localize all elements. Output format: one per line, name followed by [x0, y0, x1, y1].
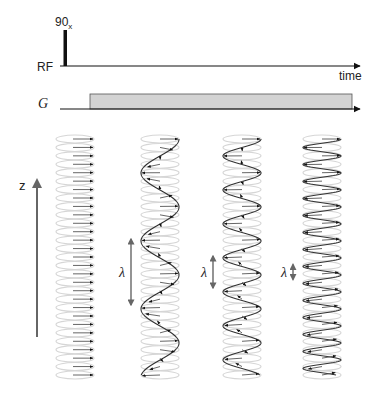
magnetization-vector: [305, 265, 322, 266]
pulse-label: 90x: [55, 15, 72, 31]
magnetization-vector: [306, 282, 322, 284]
magnetization-vector: [160, 282, 174, 284]
magnetization-vector: [236, 363, 242, 366]
magnetization-vector: [304, 198, 322, 199]
magnetization-vector: [242, 340, 259, 341]
rf-label: RF: [37, 60, 53, 74]
magnetization-vector: [224, 257, 242, 258]
magnetization-vector: [148, 232, 160, 235]
magnetization-vector: [242, 240, 260, 241]
magnetization-vector: [242, 374, 259, 375]
magnetization-vector: [308, 367, 322, 369]
magnetization-vector: [305, 215, 322, 216]
rf-pulse-bar: [64, 30, 68, 66]
helix-columns: λλλ: [56, 135, 341, 379]
column-medium-wavelength: λ: [200, 135, 261, 379]
magnetization-vector: [160, 215, 173, 217]
magnetization-vector: [146, 246, 160, 248]
z-axis: z: [19, 178, 37, 337]
magnetization-vector: [149, 299, 160, 302]
magnetization-vector: [307, 333, 322, 335]
magnetization-vector: [160, 147, 173, 150]
magnetization-vector: [239, 228, 242, 232]
column-uniform: [56, 135, 94, 379]
magnetization-vector: [238, 262, 242, 266]
magnetization-vector: [142, 375, 160, 376]
magnetization-vector: [322, 239, 339, 240]
magnetization-vector: [322, 189, 340, 190]
magnetization-vector: [306, 299, 322, 301]
magnetization-vector: [158, 253, 160, 257]
z-axis-label: z: [19, 178, 26, 193]
wavelength-label: λ: [280, 265, 287, 280]
wavelength-label: λ: [118, 265, 125, 280]
magnetization-vector: [225, 324, 242, 325]
magnetization-vector: [225, 291, 242, 292]
magnetization-vector: [242, 307, 259, 308]
magnetization-vector: [241, 161, 242, 165]
gradient-label: G: [38, 96, 48, 111]
pulse-sequence: RF 90x time G: [37, 15, 362, 111]
magnetization-vector: [146, 314, 160, 316]
magnetization-vector: [225, 358, 242, 359]
magnetization-vector: [307, 316, 322, 318]
magnetization-vector: [305, 249, 322, 250]
magnetization-vector: [147, 179, 160, 181]
magnetization-vector: [238, 296, 242, 299]
spin-helix-diagram: RF 90x time G z λλλ: [0, 0, 379, 397]
magnetization-vector: [305, 232, 322, 233]
magnetization-vector: [322, 206, 340, 207]
column-short-wavelength: λ: [280, 135, 341, 379]
wavelength-label: λ: [200, 265, 207, 280]
magnetization-vector: [322, 222, 339, 223]
time-label: time: [339, 69, 362, 83]
magnetization-vector: [160, 341, 178, 342]
gradient-pulse: [90, 94, 352, 109]
magnetization-vector: [240, 194, 242, 198]
magnetization-vector: [242, 273, 260, 274]
magnetization-vector: [160, 350, 175, 352]
magnetization-vector: [157, 321, 160, 325]
magnetization-vector: [237, 329, 242, 332]
column-long-wavelength: λ: [118, 135, 179, 379]
magnetization-vector: [148, 164, 160, 167]
magnetization-vector: [308, 350, 322, 352]
magnetization-vector: [150, 367, 160, 370]
